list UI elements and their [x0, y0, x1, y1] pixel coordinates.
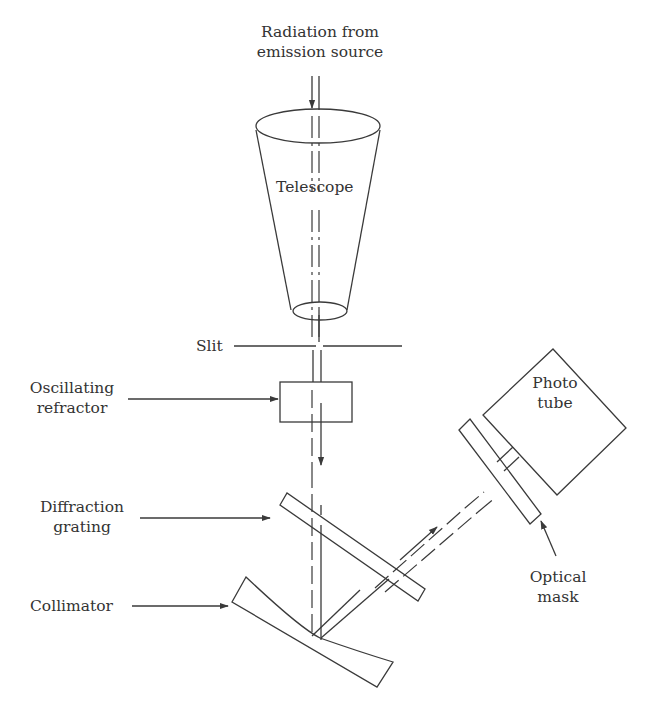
source-label: Radiation from emission source: [240, 22, 400, 62]
telescope: [256, 109, 380, 320]
optical-mask: [459, 419, 541, 524]
leader-arrows: [128, 399, 556, 606]
optical-mask-label-line-1: Optical: [518, 567, 598, 587]
diffraction-grating-label-line-2: grating: [32, 517, 132, 537]
source-label-line-1: Radiation from: [240, 22, 400, 42]
telescope-label: Telescope: [276, 177, 354, 197]
oscillating-refractor-label: Oscillating refractor: [22, 378, 122, 418]
diffraction-grating-label-line-1: Diffraction: [32, 497, 132, 517]
optical-mask-label: Optical mask: [518, 567, 598, 607]
photo-tube-label-line-2: tube: [520, 393, 590, 413]
photo-tube-label-line-1: Photo: [520, 373, 590, 393]
slit-label: Slit: [196, 336, 223, 356]
oscillating-refractor-label-line-2: refractor: [22, 398, 122, 418]
photo-tube-label: Photo tube: [520, 373, 590, 413]
reflected-beam: [312, 492, 496, 638]
beam-to-collimator: [312, 470, 321, 640]
oscillating-refractor-label-line-1: Oscillating: [22, 378, 122, 398]
source-label-line-2: emission source: [240, 42, 400, 62]
diffraction-grating-label: Diffraction grating: [32, 497, 132, 537]
optical-axis-beam: [312, 116, 321, 382]
collimator-label: Collimator: [30, 596, 113, 616]
photo-tube: [483, 349, 626, 495]
diffraction-grating: [280, 493, 425, 601]
incoming-radiation-arrows: [312, 76, 319, 110]
optical-mask-label-line-2: mask: [518, 587, 598, 607]
spectrometer-diagram: Radiation from emission source Telescope…: [0, 0, 654, 713]
oscillating-refractor: [280, 382, 352, 470]
